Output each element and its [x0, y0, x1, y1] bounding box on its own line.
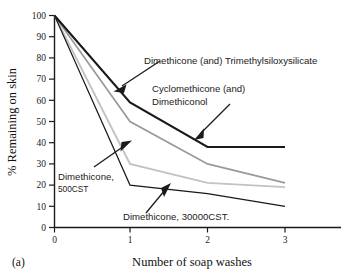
x-axis-tick-labels: 0 1 2 3 [52, 235, 288, 245]
x-tick-label: 0 [52, 235, 57, 245]
y-tick-label: 10 [37, 202, 47, 212]
y-axis-title: % Remaining on skin [5, 67, 19, 176]
y-axis-tick-labels: 0 10 20 30 40 50 60 70 80 90 100 [32, 11, 47, 233]
y-tick-label: 40 [37, 138, 47, 148]
x-axis-title: Number of soap washes [132, 255, 252, 269]
annotation-cyclomethicone-line1: Cyclomethicone (and) [152, 83, 245, 94]
y-tick-label: 50 [37, 117, 47, 127]
arrow-head-cyclomethicone [194, 129, 204, 141]
y-tick-label: 80 [37, 53, 47, 63]
y-tick-label: 0 [41, 223, 46, 233]
annotation-dimethicone-30000: Dimethicone, 30000CST. [123, 211, 229, 222]
series-line-trimethylsiloxysilicate [55, 16, 286, 148]
y-tick-label: 70 [37, 74, 47, 84]
panel-label: (a) [12, 256, 25, 269]
annotation-cyclomethicone-line2: Dimethiconol [152, 96, 207, 107]
y-tick-label: 20 [37, 180, 47, 190]
x-tick-label: 3 [283, 235, 288, 245]
x-tick-label: 2 [205, 235, 210, 245]
x-axis-ticks [55, 228, 286, 233]
arrow-line-cyclomethicone [201, 104, 230, 133]
annotation-trimethylsiloxysilicate: Dimethicone (and) Trimethylsiloxysilicat… [144, 55, 317, 66]
y-tick-label: 90 [37, 32, 47, 42]
arrow-line-dimethicone-500 [94, 146, 124, 167]
annotation-dimethicone-500-line1: Dimethicone, [58, 171, 114, 182]
y-tick-label: 30 [37, 159, 47, 169]
y-tick-label: 100 [32, 11, 47, 21]
y-axis-ticks [49, 16, 55, 228]
x-tick-label: 1 [128, 235, 133, 245]
y-tick-label: 60 [37, 96, 47, 106]
annotation-dimethicone-500-line2: 500CST [58, 184, 88, 194]
chart-figure: 0 10 20 30 40 50 60 70 80 90 100 0 1 2 3 [0, 0, 355, 279]
arrow-line-dimethicone-30000 [146, 190, 165, 213]
